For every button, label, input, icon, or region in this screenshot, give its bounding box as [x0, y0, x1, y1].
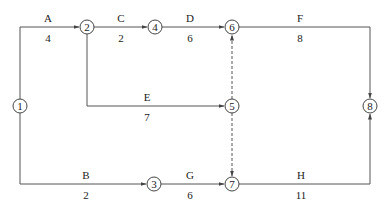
- activity-h-duration: 11: [296, 189, 307, 201]
- activity-e-label: E: [144, 91, 151, 103]
- node-3: 3: [147, 177, 161, 191]
- node-2: 2: [80, 20, 94, 34]
- activity-c-label: C: [117, 12, 124, 24]
- activity-a-duration: 4: [45, 32, 51, 44]
- network-diagram: A 4 C 2 D 6 F 8 E 7 B 2 G 6 H 11 1 2 3 4…: [0, 0, 386, 212]
- svg-text:7: 7: [229, 178, 235, 190]
- node-4: 4: [148, 20, 162, 34]
- node-5: 5: [225, 99, 239, 113]
- node-8: 8: [363, 99, 377, 113]
- node-6: 6: [225, 20, 239, 34]
- activity-g-label: G: [186, 169, 194, 181]
- svg-text:1: 1: [17, 100, 23, 112]
- svg-text:4: 4: [152, 21, 158, 33]
- activity-f-label: F: [297, 12, 303, 24]
- activity-g-duration: 6: [187, 189, 193, 201]
- activity-f-arrow: [239, 27, 370, 98]
- svg-text:2: 2: [84, 21, 90, 33]
- svg-text:5: 5: [229, 100, 235, 112]
- svg-text:3: 3: [151, 178, 157, 190]
- activity-b-duration: 2: [83, 189, 89, 201]
- activity-a-label: A: [44, 12, 52, 24]
- activity-c-duration: 2: [118, 32, 124, 44]
- activity-e-duration: 7: [144, 111, 150, 123]
- activity-h-label: H: [297, 169, 305, 181]
- node-1: 1: [13, 99, 27, 113]
- activity-e-arrow: [87, 34, 224, 106]
- node-7: 7: [225, 177, 239, 191]
- activity-f-duration: 8: [297, 32, 303, 44]
- activity-b-label: B: [82, 169, 89, 181]
- svg-text:8: 8: [367, 100, 373, 112]
- svg-text:6: 6: [229, 21, 235, 33]
- activity-d-duration: 6: [187, 32, 193, 44]
- activity-d-label: D: [186, 12, 194, 24]
